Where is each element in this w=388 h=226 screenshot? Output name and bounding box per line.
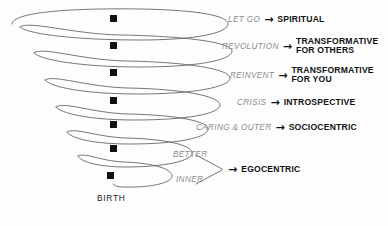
trigger-label-better: BETTER xyxy=(173,150,207,159)
arrow-icon: → xyxy=(283,41,292,52)
stage-marker xyxy=(110,97,117,104)
trigger-label-caring-and-outer: CARING & OUTER xyxy=(196,123,271,132)
outcome-label-spiritual: SPIRITUAL xyxy=(277,15,324,24)
stage-marker xyxy=(110,42,117,49)
outcome-label-transformative-for-others: TRANSFORMATIVEFOR OTHERS xyxy=(296,37,378,56)
arrow-icon: → xyxy=(278,70,287,81)
trigger-label-inner: INNER xyxy=(176,175,203,184)
spiral-loop-3 xyxy=(34,51,230,94)
stage-row-transformative-for-others: REVOLUTION → TRANSFORMATIVEFOR OTHERS xyxy=(222,37,378,56)
outcome-label-sociocentric: SOCIOCENTRIC xyxy=(289,123,357,132)
stage-marker xyxy=(107,172,114,179)
stage-marker xyxy=(110,145,117,152)
arrow-icon: → xyxy=(228,164,237,175)
trigger-label-let-go: LET GO xyxy=(228,15,260,24)
spiral-growth-diagram: LET GO → SPIRITUAL REVOLUTION → TRANSFOR… xyxy=(0,0,388,226)
spiral-loop-7 xyxy=(78,155,172,187)
origin-label-birth: BIRTH xyxy=(97,193,125,203)
outcome-label-introspective: INTROSPECTIVE xyxy=(284,98,356,107)
arrow-icon: → xyxy=(264,14,273,25)
trigger-label-revolution: REVOLUTION xyxy=(222,42,279,51)
spiral-path-graphic xyxy=(0,0,388,226)
outcome-label-egocentric: EGOCENTRIC xyxy=(241,165,300,174)
stage-marker xyxy=(110,15,117,22)
trigger-label-crisis: CRISIS xyxy=(237,98,266,107)
arrow-icon: → xyxy=(270,97,279,108)
stage-row-spiritual: LET GO → SPIRITUAL xyxy=(228,14,325,25)
stage-row-transformative-for-you: REINVENT → TRANSFORMATIVEFOR YOU xyxy=(230,66,374,85)
stage-marker xyxy=(110,121,117,128)
trigger-label-reinvent: REINVENT xyxy=(230,71,274,80)
arrow-icon: → xyxy=(275,122,284,133)
stage-marker xyxy=(110,69,117,76)
stage-row-introspective: CRISIS → INTROSPECTIVE xyxy=(237,97,355,108)
outcome-label-transformative-for-you: TRANSFORMATIVEFOR YOU xyxy=(291,66,373,85)
stage-row-egocentric: → EGOCENTRIC xyxy=(224,164,301,175)
spiral-loop-6 xyxy=(67,131,192,167)
stage-row-sociocentric: CARING & OUTER → SOCIOCENTRIC xyxy=(196,122,357,133)
